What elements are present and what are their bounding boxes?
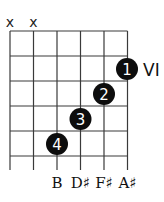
muted-string-marker: x	[6, 14, 14, 30]
finger-dot-1: 1	[116, 58, 138, 80]
finger-number: 4	[52, 136, 62, 154]
note-label: A♯	[117, 174, 136, 192]
finger-dot-2: 2	[93, 83, 115, 105]
muted-string-marker: x	[29, 14, 37, 30]
position-marker: VI	[143, 60, 160, 80]
note-label: F♯	[95, 174, 113, 192]
note-label: B	[51, 174, 62, 192]
note-label: D♯	[71, 174, 90, 192]
finger-number: 1	[122, 61, 132, 79]
finger-number: 3	[76, 111, 86, 129]
chord-diagram: x x 1 2 3 4 VI B D♯ F♯ A♯	[0, 0, 164, 202]
finger-dot-3: 3	[70, 108, 92, 130]
finger-dot-4: 4	[46, 133, 68, 155]
finger-number: 2	[99, 86, 109, 104]
